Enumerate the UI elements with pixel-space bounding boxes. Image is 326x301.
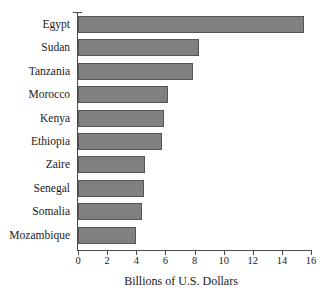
- category-label: Mozambique: [0, 227, 70, 244]
- x-tick-label: 0: [66, 255, 90, 267]
- bar: [78, 86, 168, 103]
- bar: [78, 63, 193, 80]
- category-label: Sudan: [0, 39, 70, 56]
- category-label: Senegal: [0, 180, 70, 197]
- x-tick-label: 14: [270, 255, 294, 267]
- category-label: Tanzania: [0, 63, 70, 80]
- category-label: Egypt: [0, 16, 70, 33]
- x-axis-title-text: Billions of U.S. Dollars: [88, 274, 238, 289]
- x-axis-title: Billions of U.S. Dollars: [0, 274, 326, 289]
- bar: [78, 180, 144, 197]
- x-tick-label: 12: [241, 255, 265, 267]
- category-label: Kenya: [0, 110, 70, 127]
- bar: [78, 203, 142, 220]
- x-tick-label: 2: [95, 255, 119, 267]
- category-label: Ethiopia: [0, 133, 70, 150]
- bar: [78, 16, 304, 33]
- bar: [78, 156, 145, 173]
- bar: [78, 39, 199, 56]
- bar: [78, 133, 162, 150]
- category-label: Morocco: [0, 86, 70, 103]
- bar-chart: EgyptSudanTanzaniaMoroccoKenyaEthiopiaZa…: [0, 0, 326, 301]
- bar: [78, 227, 136, 244]
- bar: [78, 110, 164, 127]
- category-label: Somalia: [0, 203, 70, 220]
- category-label: Zaire: [0, 156, 70, 173]
- x-tick-label: 4: [124, 255, 148, 267]
- x-tick-label: 10: [212, 255, 236, 267]
- x-tick-label: 16: [299, 255, 323, 267]
- x-tick-label: 8: [183, 255, 207, 267]
- x-tick-label: 6: [153, 255, 177, 267]
